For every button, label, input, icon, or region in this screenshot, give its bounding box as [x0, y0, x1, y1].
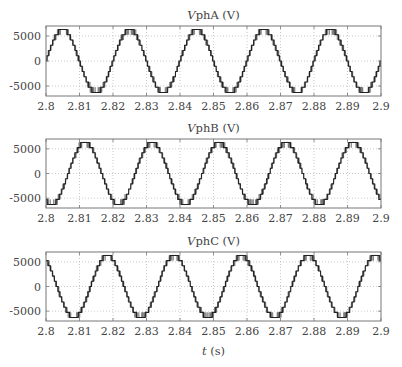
three-phase-voltage-figure: 2.82.812.822.832.842.852.862.872.882.892…: [0, 0, 402, 367]
x-tick-label: 2.86: [235, 212, 260, 225]
x-tick-label: 2.88: [302, 212, 327, 225]
x-tick-label: 2.83: [134, 325, 159, 338]
x-tick-label: 2.8: [37, 325, 55, 338]
subplot-vphc: 2.82.812.822.832.842.852.862.872.882.892…: [9, 234, 389, 358]
x-tick-label: 2.86: [235, 325, 260, 338]
x-tick-label: 2.9: [372, 212, 390, 225]
y-tick-label: 0: [34, 55, 41, 68]
x-tick-label: 2.88: [302, 100, 327, 113]
x-tick-label: 2.89: [335, 212, 360, 225]
subplot-title: VphA (V): [187, 8, 239, 22]
x-tick-label: 2.88: [302, 325, 327, 338]
y-tick-label: -5000: [9, 80, 41, 93]
x-tick-label: 2.87: [268, 100, 293, 113]
y-tick-label: 0: [34, 281, 41, 294]
subplot-vpha: 2.82.812.822.832.842.852.862.872.882.892…: [9, 8, 389, 113]
x-tick-label: 2.85: [201, 325, 226, 338]
x-tick-label: 2.84: [168, 212, 193, 225]
x-tick-label: 2.83: [134, 100, 159, 113]
x-tick-label: 2.85: [201, 212, 226, 225]
title-rest: phC (V): [195, 234, 240, 248]
y-tick-label: 0: [34, 168, 41, 181]
plot-area: [46, 139, 381, 208]
plot-area: [46, 252, 381, 321]
x-tick-label: 2.82: [101, 100, 126, 113]
x-tick-label: 2.81: [67, 100, 92, 113]
title-rest: phB (V): [196, 121, 240, 135]
y-tick-label: 5000: [13, 143, 41, 156]
x-tick-label: 2.87: [268, 325, 293, 338]
xlabel-rest: (s): [207, 344, 226, 358]
x-tick-label: 2.84: [168, 325, 193, 338]
x-tick-label: 2.89: [335, 325, 360, 338]
x-tick-label: 2.81: [67, 325, 92, 338]
subplot-title: VphB (V): [187, 121, 239, 135]
x-axis-label: t (s): [202, 344, 225, 358]
x-tick-label: 2.8: [37, 100, 55, 113]
title-rest: phA (V): [196, 8, 240, 22]
y-tick-label: 5000: [13, 256, 41, 269]
x-tick-label: 2.9: [372, 100, 390, 113]
x-tick-label: 2.83: [134, 212, 159, 225]
x-tick-label: 2.84: [168, 100, 193, 113]
x-tick-label: 2.82: [101, 325, 126, 338]
x-tick-label: 2.87: [268, 212, 293, 225]
x-tick-label: 2.82: [101, 212, 126, 225]
x-tick-label: 2.86: [235, 100, 260, 113]
x-tick-label: 2.8: [37, 212, 55, 225]
y-tick-label: -5000: [9, 192, 41, 205]
y-tick-label: -5000: [9, 305, 41, 318]
x-tick-label: 2.9: [372, 325, 390, 338]
x-tick-label: 2.85: [201, 100, 226, 113]
subplot-vphb: 2.82.812.822.832.842.852.862.872.882.892…: [9, 121, 389, 225]
x-tick-label: 2.89: [335, 100, 360, 113]
subplot-title: VphC (V): [187, 234, 240, 248]
y-tick-label: 5000: [13, 30, 41, 43]
x-tick-label: 2.81: [67, 212, 92, 225]
chart-figure: 2.82.812.822.832.842.852.862.872.882.892…: [0, 0, 402, 367]
